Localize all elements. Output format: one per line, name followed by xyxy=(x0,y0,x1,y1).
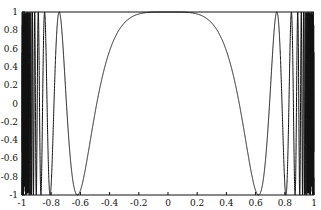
x-tick-label: -0.6 xyxy=(72,198,90,208)
y-tick-label: 0.8 xyxy=(4,25,19,35)
y-tick-label: -0.6 xyxy=(1,153,19,163)
x-tick-label: 1 xyxy=(311,198,317,208)
y-tick-label: 1 xyxy=(12,7,18,17)
y-tick-label: 0.2 xyxy=(4,80,18,90)
data-line xyxy=(22,12,314,195)
x-axis: -1-0.8-0.6-0.4-0.200.20.40.60.81 xyxy=(18,192,317,208)
y-tick-label: -1 xyxy=(9,190,18,200)
y-tick-label: -0.2 xyxy=(1,117,18,127)
y-tick-label: 0 xyxy=(12,99,18,109)
x-tick-label: 0.2 xyxy=(190,198,204,208)
x-tick-label: -0.2 xyxy=(130,198,147,208)
y-tick-label: -0.8 xyxy=(1,172,19,182)
y-tick-label: 0.4 xyxy=(4,62,19,72)
x-tick-label: 0 xyxy=(165,198,171,208)
x-tick-label: 0.6 xyxy=(248,198,263,208)
plot-frame xyxy=(22,12,314,195)
x-tick-label: -0.8 xyxy=(43,198,61,208)
y-tick-label: 0.6 xyxy=(4,44,19,54)
x-tick-label: -0.4 xyxy=(101,198,119,208)
line-chart: -1-0.8-0.6-0.4-0.200.20.40.60.81 -1-0.8-… xyxy=(0,0,321,210)
y-tick-label: -0.4 xyxy=(1,135,19,145)
x-tick-label: 0.4 xyxy=(219,198,234,208)
y-axis: -1-0.8-0.6-0.4-0.200.20.40.60.81 xyxy=(1,7,25,200)
x-tick-label: -1 xyxy=(18,198,27,208)
x-tick-label: 0.8 xyxy=(278,198,293,208)
